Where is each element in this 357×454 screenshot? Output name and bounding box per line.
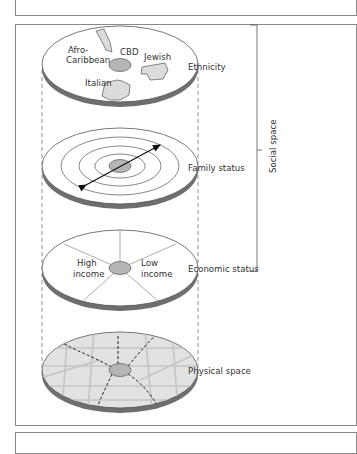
label-afro: Afro- — [68, 45, 88, 55]
label-jewish: Jewish — [143, 52, 171, 62]
cbd-center — [109, 262, 131, 275]
layer-family-status: Family status — [42, 128, 245, 209]
label-low: Low — [141, 258, 158, 268]
label-italian: Italian — [85, 78, 112, 88]
label-high: High — [77, 258, 97, 268]
cbd-center — [109, 59, 131, 72]
social-space-bracket: Social space — [250, 25, 278, 271]
cbd-center — [109, 364, 131, 377]
layer-label-economic-status: Economic status — [188, 264, 259, 274]
label-cbd: CBD — [120, 47, 139, 57]
label-low-income: income — [141, 269, 172, 279]
social-space-label: Social space — [268, 120, 278, 173]
layer-physical-space: Physical space — [40, 330, 251, 413]
dashed-connectors — [42, 70, 198, 375]
label-caribbean: Caribbean — [66, 55, 110, 65]
label-high-income: income — [73, 269, 104, 279]
layer-economic-status: High income Low income Economic status — [42, 230, 259, 311]
layer-label-physical-space: Physical space — [188, 366, 251, 376]
layer-label-family-status: Family status — [188, 163, 245, 173]
layer-label-ethnicity: Ethnicity — [188, 62, 226, 72]
